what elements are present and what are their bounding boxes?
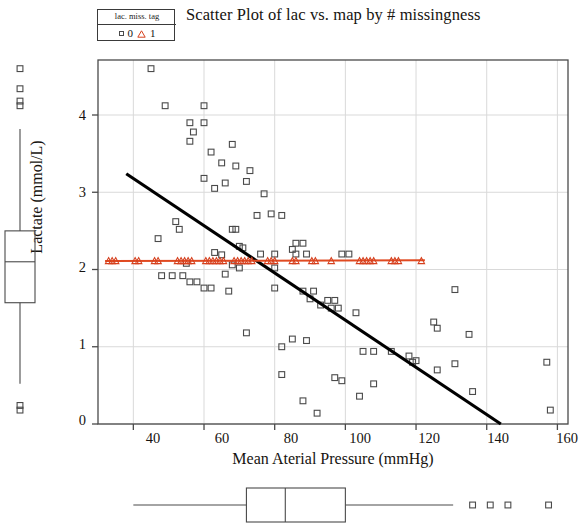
scatter-points-group-0 [148,66,553,416]
regression-line-group-0 [126,174,501,424]
scatter-plot-figure: lac. miss. tag 0 1 Scatter Plot of lac v… [0,0,587,526]
gridlines [98,60,568,424]
x-marginal-boxplot [133,488,551,522]
y-marginal-boxplot [5,66,35,413]
plot-canvas [0,0,587,526]
